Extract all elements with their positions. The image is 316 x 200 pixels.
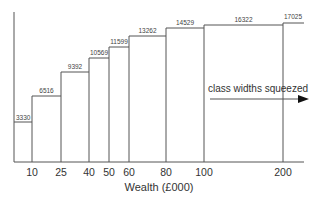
x-tick-label: 60	[123, 166, 135, 178]
x-tick-label: 10	[26, 166, 38, 178]
value-label: 14529	[176, 19, 194, 26]
value-label: 16322	[234, 16, 252, 23]
value-label: 17025	[284, 13, 302, 20]
x-tick-label: 25	[55, 166, 67, 178]
x-tick-label: 200	[274, 166, 292, 178]
annotation-text: class widths squeezed	[208, 83, 308, 94]
value-label: 3330	[16, 114, 31, 121]
histogram-chart: 3330 6516 9392 10569 11599 13262 14529 1…	[0, 0, 316, 200]
arrowhead-icon	[298, 95, 309, 103]
x-axis-title: Wealth (£000)	[125, 181, 194, 193]
x-tick-label: 50	[103, 166, 115, 178]
x-tick-label: 100	[195, 166, 213, 178]
value-label: 11599	[110, 38, 128, 45]
x-tick-label: 40	[83, 166, 95, 178]
value-label: 6516	[39, 87, 54, 94]
value-label: 13262	[138, 27, 156, 34]
value-labels: 3330 6516 9392 10569 11599 13262 14529 1…	[16, 13, 302, 121]
x-tick-label: 80	[160, 166, 172, 178]
value-label: 10569	[90, 49, 108, 56]
annotation: class widths squeezed	[208, 83, 309, 103]
value-label: 9392	[68, 63, 83, 70]
x-tick-labels: 10 25 40 50 60 80 100 200	[26, 166, 292, 178]
